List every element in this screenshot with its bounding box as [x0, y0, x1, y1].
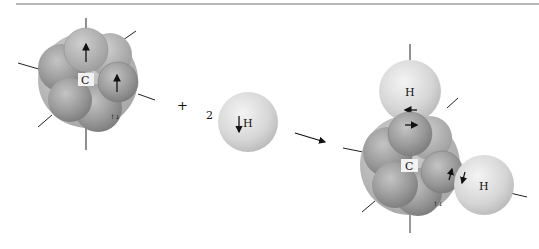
hydrogen-label: H	[243, 117, 253, 130]
reaction-arrow-icon	[295, 133, 325, 142]
coefficient: 2	[206, 109, 213, 122]
carbon-label-product: C	[405, 160, 413, 173]
reaction-diagram: C ↑↓ + 2 H H	[0, 0, 539, 249]
carbon-atom-reactant: C ↑↓	[18, 18, 155, 150]
hydrogen-atom-reactant: H	[218, 92, 278, 152]
svg-text:↑↓: ↑↓	[110, 113, 120, 120]
carbon-label: C	[81, 74, 89, 87]
plus-sign: +	[177, 98, 188, 113]
svg-text:↑↓: ↑↓	[433, 200, 443, 207]
product-molecule: H H C ↑↓	[343, 44, 527, 233]
hydrogen-label-top: H	[405, 86, 415, 99]
hydrogen-label-right: H	[479, 180, 489, 193]
